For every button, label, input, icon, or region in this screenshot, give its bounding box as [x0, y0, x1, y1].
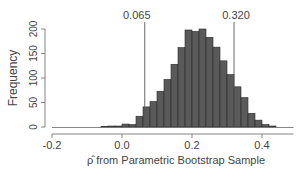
x-tick-label: 0.2	[184, 139, 199, 151]
histogram-bars	[52, 29, 294, 128]
histogram-bar	[108, 126, 115, 127]
histogram-bar	[129, 125, 136, 127]
percentile-label: 0.065	[123, 9, 151, 21]
histogram-bar	[227, 75, 234, 127]
histogram-bar	[150, 102, 157, 127]
y-axis: 050100150200	[28, 20, 45, 130]
y-tick-label: 0	[28, 124, 39, 130]
histogram-bar	[248, 113, 255, 127]
histogram-bar	[220, 61, 227, 127]
y-tick-label: 50	[28, 97, 39, 109]
histogram-bar	[143, 107, 150, 127]
histogram-chart: 0.0650.320 -0.20.00.20.4 050100150200 Fr…	[0, 0, 307, 171]
histogram-bar	[157, 91, 164, 127]
histogram-bar	[262, 125, 269, 127]
histogram-bar	[241, 98, 248, 127]
histogram-bar	[185, 30, 192, 127]
x-axis: -0.20.00.20.4	[43, 134, 294, 151]
histogram-bar	[269, 126, 276, 127]
histogram-bar	[206, 37, 213, 127]
histogram-bar	[255, 120, 262, 127]
histogram-bar	[178, 48, 185, 127]
histogram-bar	[199, 29, 206, 127]
histogram-bar	[122, 124, 129, 127]
y-tick-label: 100	[28, 69, 39, 86]
x-tick-label: -0.2	[43, 139, 62, 151]
histogram-bar	[234, 87, 241, 127]
percentile-label: 0.320	[222, 9, 250, 21]
histogram-bar	[192, 31, 199, 127]
y-tick-label: 150	[28, 45, 39, 62]
x-tick-label: 0.4	[254, 139, 269, 151]
y-axis-label: Frequency	[6, 50, 20, 107]
x-tick-label: 0.0	[114, 139, 129, 151]
y-tick-label: 200	[28, 20, 39, 37]
histogram-bar	[136, 116, 143, 127]
histogram-bar	[164, 79, 171, 127]
histogram-bar	[171, 64, 178, 127]
histogram-bar	[115, 126, 122, 127]
histogram-bar	[213, 47, 220, 127]
x-axis-label: ρ̂ from Parametric Bootstrap Sample	[87, 154, 265, 166]
